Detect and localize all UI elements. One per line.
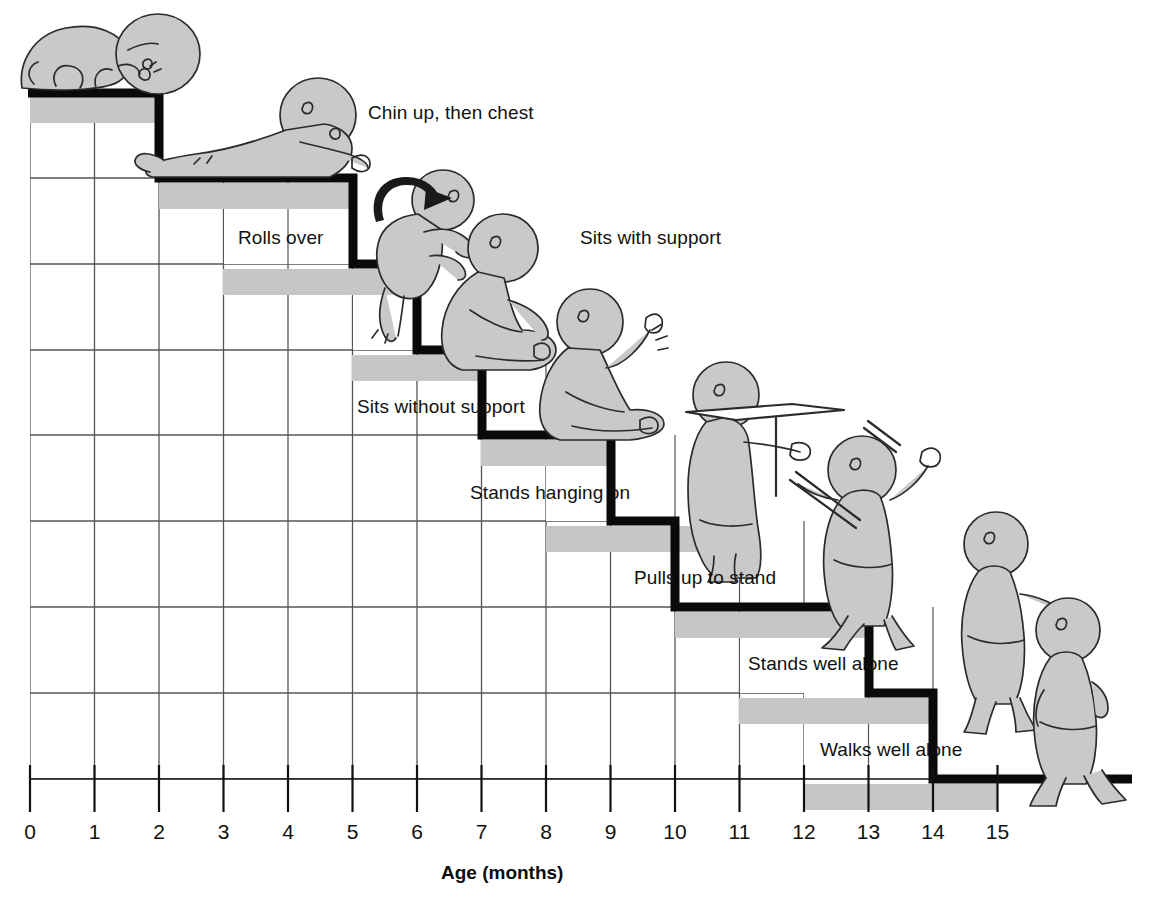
tread-7 <box>739 698 933 724</box>
tread-1 <box>159 183 353 209</box>
x-tick-label-6: 6 <box>397 820 437 844</box>
milestone-label-pulls-up-to-stand: Pulls up to stand <box>634 567 776 589</box>
x-tick-label-0: 0 <box>10 820 50 844</box>
figure-canvas: Chin up, then chest Rolls over Sits with… <box>0 0 1152 907</box>
milestone-label-sits-with-support: Sits with support <box>580 227 721 249</box>
milestone-label-chin-up: Chin up, then chest <box>368 102 534 124</box>
x-tick-label-10: 10 <box>655 820 695 844</box>
x-tick-label-2: 2 <box>139 820 179 844</box>
milestone-label-sits-without-support: Sits without support <box>357 396 525 418</box>
milestone-label-rolls-over: Rolls over <box>238 227 323 249</box>
x-tick-label-7: 7 <box>462 820 502 844</box>
x-tick-label-5: 5 <box>333 820 373 844</box>
x-tick-label-11: 11 <box>720 820 760 844</box>
x-tick-label-12: 12 <box>784 820 824 844</box>
baby-stands-hanging-on <box>686 362 844 582</box>
tread-0 <box>30 97 159 123</box>
x-tick-label-15: 15 <box>978 820 1018 844</box>
x-tick-label-14: 14 <box>913 820 953 844</box>
x-tick-label-3: 3 <box>204 820 244 844</box>
milestone-label-stands-hanging-on: Stands hanging on <box>470 482 630 504</box>
baby-illustrations <box>21 14 1126 806</box>
x-tick-label-8: 8 <box>526 820 566 844</box>
x-axis-title: Age (months) <box>441 862 563 884</box>
milestone-label-stands-well-alone: Stands well alone <box>748 653 899 675</box>
baby-newborn-prone <box>21 14 200 94</box>
x-tick-label-13: 13 <box>849 820 889 844</box>
milestone-label-walks-well-alone: Walks well alone <box>820 739 962 761</box>
tread-8 <box>804 784 998 810</box>
baby-sits-without-support <box>540 289 668 440</box>
x-tick-label-1: 1 <box>75 820 115 844</box>
x-tick-label-9: 9 <box>591 820 631 844</box>
milestone-staircase-chart <box>0 0 1152 907</box>
tread-4 <box>481 440 611 466</box>
x-tick-label-4: 4 <box>268 820 308 844</box>
